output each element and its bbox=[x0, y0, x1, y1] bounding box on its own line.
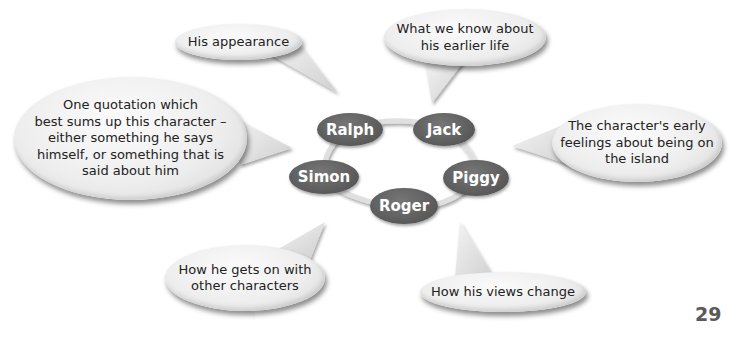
prompt-relationships: How he gets on with other characters bbox=[165, 245, 325, 311]
prompt-quotation: One quotation which best sums up this ch… bbox=[14, 77, 247, 200]
page-number: 29 bbox=[695, 303, 721, 325]
prompt-appearance: His appearance bbox=[175, 24, 302, 60]
character-node-jack: Jack bbox=[413, 113, 475, 146]
character-node-ralph: Ralph bbox=[317, 113, 383, 146]
tail-views-change bbox=[455, 222, 495, 278]
character-node-piggy: Piggy bbox=[443, 160, 509, 196]
prompt-early-feelings: The character's early feelings about bei… bbox=[552, 104, 722, 182]
prompt-earlier-life: What we know about his earlier life bbox=[384, 9, 546, 66]
character-node-roger: Roger bbox=[370, 188, 438, 224]
prompt-views-change: How his views change bbox=[420, 272, 586, 312]
character-node-simon: Simon bbox=[289, 160, 359, 194]
character-mind-map: His appearance What we know about his ea… bbox=[0, 0, 744, 337]
tail-earlier-life bbox=[425, 60, 465, 103]
